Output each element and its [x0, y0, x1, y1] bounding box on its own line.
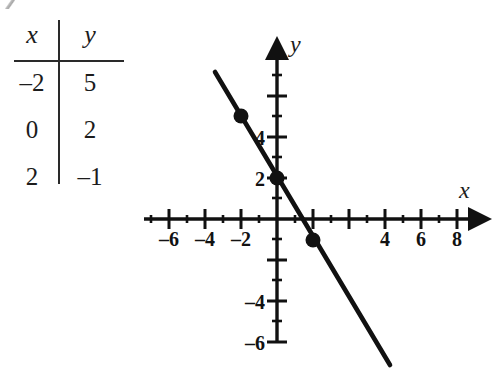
- x-tick-label-neg2: –2: [227, 229, 255, 249]
- y-axis-label: y: [290, 32, 301, 56]
- coordinate-graph: x y –6 –4 –2 4 6 8 4 2 –4 –6: [130, 24, 492, 383]
- table-cell-y-1: 2: [64, 117, 116, 142]
- x-tick-label-neg6: –6: [155, 229, 183, 249]
- table-horizontal-rule: [14, 60, 124, 62]
- table-cell-x-2: 2: [6, 164, 58, 189]
- table-cell-x-0: –2: [6, 70, 58, 95]
- y-tick-label-neg4: –4: [234, 292, 265, 312]
- y-tick-label-2: 2: [247, 169, 265, 189]
- x-tick-label-neg4: –4: [191, 229, 219, 249]
- scan-artifact: [2, 0, 18, 9]
- x-tick-label-6: 6: [412, 229, 430, 249]
- value-table: x y –2 5 0 2 2 –1: [8, 18, 130, 186]
- table-cell-y-2: –1: [64, 164, 116, 189]
- data-point-2-neg1: [306, 233, 321, 248]
- table-header-x: x: [6, 22, 58, 48]
- table-header-y: y: [64, 22, 116, 48]
- y-tick-label-neg6: –6: [234, 333, 265, 353]
- data-point-neg2-5: [234, 109, 249, 124]
- x-tick-label-4: 4: [376, 229, 394, 249]
- graph-canvas: [130, 24, 492, 383]
- table-cell-y-0: 5: [64, 70, 116, 95]
- table-vertical-rule: [58, 20, 60, 184]
- x-axis-label: x: [459, 178, 470, 202]
- y-axis-arrowhead: [265, 36, 289, 60]
- data-point-0-2: [270, 171, 285, 186]
- figure-root: x y –2 5 0 2 2 –1: [0, 0, 492, 383]
- x-axis-arrowhead: [468, 207, 492, 231]
- x-tick-label-8: 8: [448, 229, 466, 249]
- table-cell-x-1: 0: [6, 117, 58, 142]
- y-tick-label-4: 4: [247, 128, 265, 148]
